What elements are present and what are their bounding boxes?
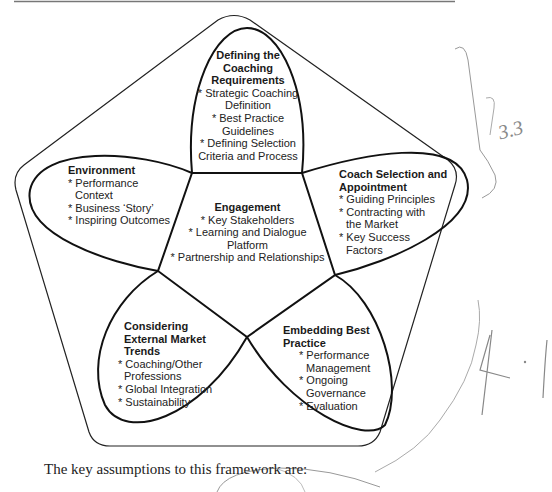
handwritten-bar	[543, 340, 547, 398]
handwritten-3-3: 3.3	[495, 116, 526, 144]
title-line: Practice	[283, 337, 393, 350]
item: Definition	[196, 99, 300, 112]
item: Guidelines	[196, 125, 300, 138]
handwritten-bracket-top	[455, 47, 496, 198]
item: * Ongoing	[283, 374, 393, 387]
item: * Learning and Dialogue	[170, 226, 325, 239]
item: Governance	[283, 387, 393, 400]
title-line: Coaching	[196, 62, 300, 75]
title-line: Appointment	[339, 181, 459, 194]
item: * Defining Selection	[196, 137, 300, 150]
item: Factors	[339, 244, 459, 257]
title-line: Embedding Best	[283, 324, 393, 337]
page: 3.3 Defining the Coaching Requirements *…	[0, 0, 552, 492]
label-environment: Environment * Performance Context * Busi…	[68, 164, 178, 227]
item: * Key Stakeholders	[170, 214, 325, 227]
item: * Performance	[68, 177, 178, 190]
handwritten-dot	[524, 361, 526, 363]
handwritten-bracket-middle	[486, 97, 494, 135]
title-line: Environment	[68, 164, 178, 177]
title-line: Considering	[118, 320, 228, 333]
title-line: Engagement	[170, 201, 325, 214]
item: * Sustainability	[118, 396, 228, 409]
label-embedding-best-practice: Embedding Best Practice * Performance Ma…	[283, 324, 393, 412]
caption-text: The key assumptions to this framework ar…	[44, 461, 307, 478]
label-engagement: Engagement * Key Stakeholders * Learning…	[170, 201, 325, 264]
item: the Market	[339, 218, 459, 231]
item: * Contracting with	[339, 206, 459, 219]
title-line: External Market	[118, 333, 228, 346]
item: Context	[68, 189, 178, 202]
title-line: Requirements	[196, 74, 300, 87]
item: * Strategic Coaching	[196, 87, 300, 100]
label-defining-requirements: Defining the Coaching Requirements * Str…	[196, 49, 300, 162]
item: * Partnership and Relationships	[170, 251, 325, 264]
handwritten-4	[480, 330, 510, 415]
item: * Business ‘Story’	[68, 202, 178, 215]
item: * Global Integration	[118, 383, 228, 396]
item: Professions	[118, 370, 228, 383]
item: Management	[283, 362, 393, 375]
item: * Inspiring Outcomes	[68, 214, 178, 227]
item: * Evaluation	[283, 400, 393, 413]
title-line: Coach Selection and	[339, 168, 459, 181]
item: Criteria and Process	[196, 150, 300, 163]
item: Platform	[170, 239, 325, 252]
label-coach-selection: Coach Selection and Appointment * Guidin…	[339, 168, 459, 256]
item: * Best Practice	[196, 112, 300, 125]
title-line: Defining the	[196, 49, 300, 62]
item: * Key Success	[339, 231, 459, 244]
title-line: Trends	[118, 345, 228, 358]
item: * Guiding Principles	[339, 193, 459, 206]
label-external-market: Considering External Market Trends * Coa…	[118, 320, 228, 408]
item: * Performance	[283, 349, 393, 362]
item: * Coaching/Other	[118, 358, 228, 371]
